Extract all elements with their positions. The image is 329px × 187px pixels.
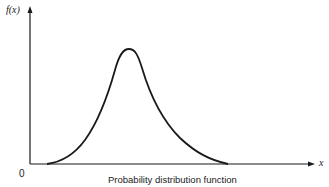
pdf-chart [0,0,329,187]
chart-caption: Probability distribution function [108,174,237,185]
x-axis-arrow-icon [308,162,315,167]
y-axis-arrow-icon [28,6,33,13]
x-axis-label: x [319,157,323,168]
pdf-curve [47,49,228,164]
y-axis-label: f(x) [6,4,20,15]
origin-label: 0 [19,168,25,179]
